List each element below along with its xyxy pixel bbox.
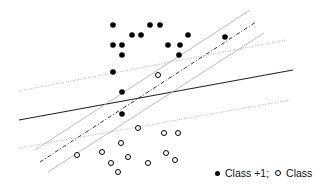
class-neg-point xyxy=(75,153,80,158)
class-neg-point xyxy=(164,151,169,156)
class-neg-point xyxy=(173,158,178,163)
class-neg-point xyxy=(116,170,121,175)
class-neg-point xyxy=(126,155,131,160)
class-neg-point xyxy=(136,126,141,131)
class-pos-point xyxy=(110,42,116,48)
dashed-separator-line xyxy=(40,22,256,162)
class-pos-point xyxy=(110,69,116,75)
class-pos-point xyxy=(177,42,183,48)
open-circle-icon xyxy=(275,170,281,176)
class-neg-point xyxy=(119,141,124,146)
legend-pos-label: Class +1; xyxy=(225,167,269,179)
class-pos-point xyxy=(138,32,144,38)
dotted-upper-line xyxy=(19,40,286,91)
class-pos-point xyxy=(129,32,135,38)
class-pos-point xyxy=(185,32,191,38)
class-pos-point xyxy=(176,52,182,58)
margin-upper-line xyxy=(35,10,250,150)
dotted-lower-line xyxy=(19,100,290,148)
class-neg-point xyxy=(156,73,161,78)
solid-separator-line xyxy=(19,70,293,120)
class-pos-point xyxy=(119,42,125,48)
class-pos-point xyxy=(165,42,171,48)
margin-lower-line xyxy=(48,33,264,172)
filled-circle-icon xyxy=(215,171,220,176)
class-pos-point xyxy=(119,111,125,117)
class-pos-point xyxy=(147,22,153,28)
class-neg-point xyxy=(100,150,105,155)
class-pos-point xyxy=(119,89,125,95)
class-neg-point xyxy=(109,161,114,166)
legend-neg-label: Class −1 xyxy=(286,167,316,179)
class-pos-point xyxy=(119,52,125,58)
svm-diagram xyxy=(0,0,316,191)
class-pos-point xyxy=(110,22,116,28)
class-pos-point xyxy=(222,34,228,40)
class-neg-point xyxy=(176,131,181,136)
class-neg-points xyxy=(75,73,181,175)
separator-lines xyxy=(19,10,293,172)
class-neg-point xyxy=(146,161,151,166)
legend: Class +1; Class −1 xyxy=(215,167,316,179)
class-pos-point xyxy=(157,22,163,28)
class-neg-point xyxy=(162,131,167,136)
